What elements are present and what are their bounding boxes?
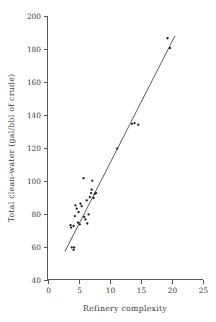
data-point xyxy=(86,199,88,201)
data-point xyxy=(91,180,93,182)
data-point xyxy=(89,196,91,198)
data-point xyxy=(72,225,74,227)
data-points xyxy=(69,37,171,251)
y-tick-label: 180 xyxy=(27,45,41,54)
y-tick-label: 140 xyxy=(27,111,41,120)
x-axis-ticks xyxy=(49,280,204,284)
data-point xyxy=(84,218,86,220)
y-tick-label: 160 xyxy=(27,78,41,87)
data-point xyxy=(91,189,93,191)
data-point xyxy=(166,37,168,39)
data-point xyxy=(73,246,75,248)
data-point xyxy=(116,147,118,149)
data-point xyxy=(131,123,133,125)
chart-figure: 406080100120140160180200 0510152025 Refi… xyxy=(0,0,216,322)
x-axis-title: Refinery complexity xyxy=(83,304,167,313)
x-tick-label: 20 xyxy=(168,286,178,295)
data-point xyxy=(79,223,81,225)
data-point xyxy=(81,205,83,207)
x-axis-tick-labels: 0510152025 xyxy=(46,286,208,295)
data-point xyxy=(74,215,76,217)
data-point xyxy=(95,192,97,194)
data-point xyxy=(83,216,85,218)
data-point xyxy=(137,124,139,126)
y-axis-tick-labels: 406080100120140160180200 xyxy=(27,12,41,285)
y-tick-label: 40 xyxy=(32,276,42,285)
y-tick-label: 200 xyxy=(27,12,41,21)
y-axis-title: Total clean-water (gal/bbl of crude) xyxy=(7,74,16,223)
data-point xyxy=(90,192,92,194)
data-point xyxy=(72,249,74,251)
x-tick-label: 10 xyxy=(106,286,116,295)
data-point xyxy=(79,203,81,205)
data-point xyxy=(69,224,71,226)
data-point xyxy=(76,208,78,210)
x-tick-label: 15 xyxy=(137,286,147,295)
y-tick-label: 60 xyxy=(32,243,42,252)
x-tick-label: 25 xyxy=(199,286,209,295)
y-tick-label: 100 xyxy=(27,177,41,186)
data-point xyxy=(169,47,171,49)
data-point xyxy=(77,211,79,213)
data-point xyxy=(133,122,135,124)
y-axis-ticks xyxy=(44,17,48,281)
scatter-plot: 406080100120140160180200 0510152025 Refi… xyxy=(0,0,216,322)
data-point xyxy=(74,204,76,206)
data-point xyxy=(92,197,94,199)
data-point xyxy=(86,222,88,224)
data-point xyxy=(70,226,72,228)
data-point xyxy=(71,246,73,248)
data-point xyxy=(77,222,79,224)
regression-line xyxy=(65,36,175,252)
y-tick-label: 120 xyxy=(27,144,41,153)
data-point xyxy=(87,213,89,215)
x-tick-label: 5 xyxy=(77,286,82,295)
y-tick-label: 80 xyxy=(32,210,42,219)
x-tick-label: 0 xyxy=(46,286,51,295)
data-point xyxy=(82,177,84,179)
